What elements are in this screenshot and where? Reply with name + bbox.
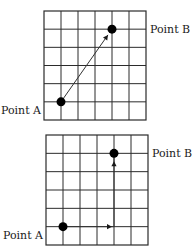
point-b-label: Point B [150, 23, 190, 36]
point-b-marker [108, 25, 117, 34]
arrowhead-icon [103, 35, 108, 41]
diagonal-path-diagram: Point APoint B [1, 11, 190, 120]
arrowhead-right-icon [107, 224, 112, 229]
point-b-marker [110, 149, 119, 158]
point-a-label: Point A [1, 104, 42, 117]
arrowhead-up-icon [111, 161, 116, 166]
diagram-canvas: Point APoint B Point APoint B [0, 0, 194, 250]
stepwise-path-diagram: Point APoint B [3, 135, 192, 245]
point-b-label: Point B [152, 147, 192, 160]
path-arrow-line [61, 35, 108, 102]
point-a-marker [59, 222, 68, 231]
point-a-label: Point A [3, 229, 44, 242]
point-a-marker [57, 97, 66, 106]
